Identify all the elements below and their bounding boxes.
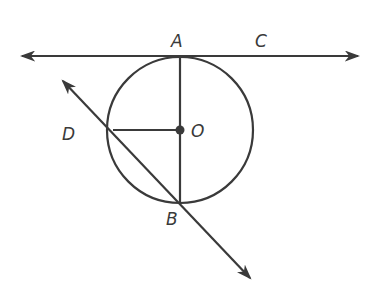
label-c: C bbox=[255, 31, 267, 51]
label-a: A bbox=[170, 31, 183, 51]
label-o: O bbox=[191, 121, 204, 141]
secant-line-db bbox=[63, 81, 250, 278]
label-d: D bbox=[62, 124, 75, 144]
geometry-diagram: A C D O B bbox=[0, 0, 381, 293]
label-b: B bbox=[166, 209, 178, 229]
center-point-o bbox=[176, 126, 185, 135]
